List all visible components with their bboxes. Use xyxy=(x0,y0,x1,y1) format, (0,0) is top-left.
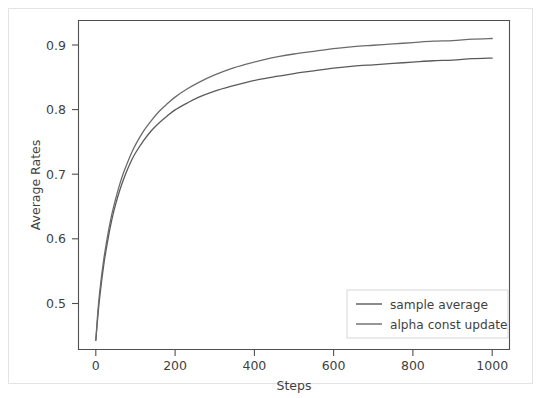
y-tick-label: 0.7 xyxy=(46,167,66,182)
y-tick-label: 0.8 xyxy=(46,102,66,117)
x-tick-label: 0 xyxy=(92,358,100,373)
x-tick-label: 200 xyxy=(163,358,187,373)
x-tick-label: 600 xyxy=(322,358,346,373)
y-tick-label: 0.9 xyxy=(46,38,66,53)
legend-label: sample average xyxy=(390,298,488,312)
y-axis-ticks xyxy=(72,45,78,304)
x-axis-title: Steps xyxy=(277,378,312,393)
x-axis-ticks xyxy=(96,350,492,356)
y-tick-label: 0.5 xyxy=(46,296,66,311)
line-chart: 0.5 0.6 0.7 0.8 0.9 0 200 400 600 800 10… xyxy=(0,0,543,398)
figure-canvas: 0.5 0.6 0.7 0.8 0.9 0 200 400 600 800 10… xyxy=(0,0,543,398)
x-axis-tick-labels: 0 200 400 600 800 1000 xyxy=(92,358,508,373)
x-tick-label: 400 xyxy=(242,358,266,373)
legend-label: alpha const update xyxy=(390,318,507,332)
x-tick-label: 800 xyxy=(401,358,425,373)
y-axis-title: Average Rates xyxy=(28,140,43,230)
chart-legend[interactable]: sample average alpha const update xyxy=(347,290,508,338)
x-tick-label: 1000 xyxy=(476,358,508,373)
y-axis-tick-labels: 0.5 0.6 0.7 0.8 0.9 xyxy=(46,38,66,312)
y-tick-label: 0.6 xyxy=(46,231,66,246)
